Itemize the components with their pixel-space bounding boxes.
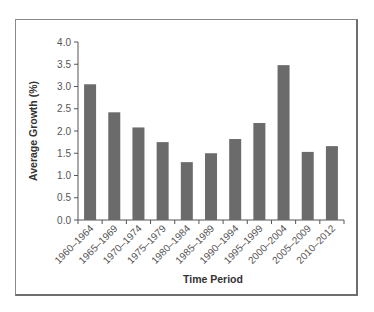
bar [108,112,120,220]
y-tick-label: 1.0 [57,170,71,181]
y-tick-label: 0.0 [57,215,71,226]
bar [278,65,290,220]
y-axis: 0.00.51.01.52.02.53.03.54.0 [57,37,78,226]
y-axis-title: Average Growth (%) [27,81,39,181]
bar [229,139,241,220]
y-tick-label: 4.0 [57,37,71,48]
bar-chart: 0.00.51.01.52.02.53.03.54.0 1960–1964196… [0,0,374,312]
bar [302,152,314,220]
y-tick-label: 3.5 [57,59,71,70]
y-tick-label: 2.5 [57,103,71,114]
x-axis: 1960–19641965–19691970–19741975–19791980… [52,220,344,266]
bar [84,84,96,220]
y-tick-label: 3.0 [57,81,71,92]
bars [84,65,338,220]
bar [132,127,144,220]
bar [253,123,265,220]
y-tick-label: 0.5 [57,192,71,203]
y-tick-label: 1.5 [57,148,71,159]
bar [326,146,338,220]
x-axis-title: Time Period [183,273,243,285]
bar [181,162,193,220]
bar [205,153,217,220]
y-tick-label: 2.0 [57,126,71,137]
bar [157,142,169,220]
